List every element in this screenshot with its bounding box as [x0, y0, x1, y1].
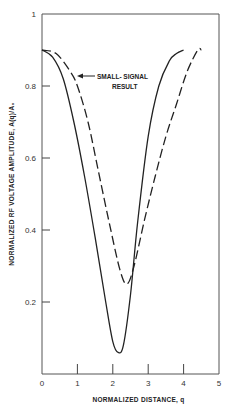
axis-labels: 0123450.20.40.60.81NORMALIZED DISTANCE, …	[8, 10, 222, 404]
y-axis-title: NORMALIZED RF VOLTAGE AMPLITUDE, A(q)/A₀	[8, 102, 16, 265]
y-tick-label: 0.6	[25, 154, 37, 163]
line-chart: 0123450.20.40.60.81NORMALIZED DISTANCE, …	[0, 0, 232, 412]
y-tick-label: 0.8	[25, 82, 37, 91]
y-tick-label: 1	[32, 10, 37, 19]
x-tick-label: 4	[181, 379, 186, 388]
x-tick-label: 2	[111, 379, 116, 388]
x-tick-label: 5	[217, 379, 222, 388]
y-tick-label: 0.2	[25, 298, 37, 307]
annotation-arrow-icon	[77, 74, 83, 79]
x-tick-label: 1	[75, 379, 80, 388]
series-lines	[42, 48, 201, 353]
annotation-label-line2: RESULT	[112, 83, 138, 90]
x-axis-title: NORMALIZED DISTANCE, q	[92, 396, 184, 404]
large-signal-curve	[42, 50, 184, 353]
annotation-label: SMALL- SIGNAL	[97, 73, 148, 80]
y-tick-label: 0.4	[25, 226, 37, 235]
x-tick-label: 0	[40, 379, 45, 388]
x-tick-label: 3	[146, 379, 151, 388]
